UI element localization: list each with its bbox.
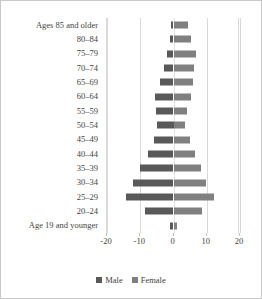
tick-label: -20 xyxy=(100,237,111,246)
tick-label: -10 xyxy=(134,237,145,246)
bar-female xyxy=(174,165,202,172)
legend-swatch-icon xyxy=(132,277,138,283)
bar-male xyxy=(160,79,173,86)
legend-item-male[interactable]: Male xyxy=(96,276,122,285)
bar-row xyxy=(107,204,238,218)
bar-female xyxy=(174,151,196,158)
bar-row xyxy=(107,32,238,46)
chart-legend: MaleFemale xyxy=(1,273,261,287)
bar-female xyxy=(174,136,191,143)
bar-male xyxy=(157,122,174,129)
legend-label: Male xyxy=(105,276,122,285)
bar-row xyxy=(107,18,238,32)
category-label: 40–44 xyxy=(77,150,98,159)
bar-rows xyxy=(107,18,238,233)
legend-item-female[interactable]: Female xyxy=(132,276,166,285)
bar-row xyxy=(107,161,238,175)
bar-female xyxy=(174,208,203,215)
bar-female xyxy=(174,36,192,43)
bar-row xyxy=(107,61,238,75)
bar-male xyxy=(148,151,174,158)
category-label: 55–59 xyxy=(77,107,98,116)
category-label: 25–29 xyxy=(77,193,98,202)
bar-male xyxy=(126,194,173,201)
bar-female xyxy=(174,108,187,115)
bar-female xyxy=(174,179,207,186)
bar-female xyxy=(174,194,215,201)
bar-female xyxy=(174,50,197,57)
bar-row xyxy=(107,104,238,118)
bar-row xyxy=(107,90,238,104)
category-axis-labels: Ages 85 and older80–8475–7970–7465–6960–… xyxy=(1,18,102,233)
bar-row xyxy=(107,176,238,190)
category-label: 70–74 xyxy=(77,64,98,73)
category-label: 80–84 xyxy=(77,35,98,44)
gridline-20 xyxy=(240,18,241,233)
plot-area xyxy=(106,18,239,233)
tick-label: 10 xyxy=(202,237,211,246)
bar-female xyxy=(174,65,195,72)
bar-row xyxy=(107,147,238,161)
category-label: 30–34 xyxy=(77,178,98,187)
bar-male xyxy=(155,93,173,100)
category-label: 50–54 xyxy=(77,121,98,130)
population-pyramid-chart: Ages 85 and older80–8475–7970–7465–6960–… xyxy=(0,0,262,299)
bar-row xyxy=(107,47,238,61)
bar-male xyxy=(133,179,174,186)
bar-female xyxy=(174,22,189,29)
legend-swatch-icon xyxy=(96,277,102,283)
bar-row xyxy=(107,190,238,204)
bar-female xyxy=(174,122,186,129)
bar-female xyxy=(174,79,193,86)
tick-label: 0 xyxy=(170,237,174,246)
bar-female xyxy=(174,93,192,100)
bar-male xyxy=(145,208,173,215)
category-label: Age 19 and younger xyxy=(29,221,98,230)
bar-male xyxy=(154,136,174,143)
bar-row xyxy=(107,219,238,233)
bar-male xyxy=(140,165,174,172)
bar-row xyxy=(107,118,238,132)
category-label: 20–24 xyxy=(77,207,98,216)
legend-label: Female xyxy=(141,276,166,285)
category-label: 65–69 xyxy=(77,78,98,87)
category-label: 35–39 xyxy=(77,164,98,173)
bar-row xyxy=(107,133,238,147)
bar-male xyxy=(167,50,174,57)
bar-row xyxy=(107,75,238,89)
bar-male xyxy=(164,65,174,72)
category-label: 75–79 xyxy=(77,49,98,58)
value-axis: -20-1001020 xyxy=(106,233,239,249)
bar-male xyxy=(156,108,173,115)
category-label: 45–49 xyxy=(77,135,98,144)
category-label: Ages 85 and older xyxy=(36,21,98,30)
tick-label: 20 xyxy=(235,237,244,246)
bar-female xyxy=(174,222,178,229)
category-label: 60–64 xyxy=(77,92,98,101)
